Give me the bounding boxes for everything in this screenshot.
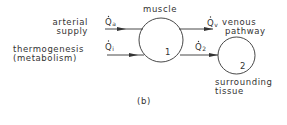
q2-symbol: Q2 [195,43,207,53]
panel-label: (b) [137,97,151,106]
qi-symbol: Qi [105,43,115,53]
arterial-label-line2: supply [30,27,88,36]
qv-symbol: Qv [207,19,218,29]
qv-subscript: v [214,21,218,28]
muscle-node-number: 1 [165,48,171,57]
venous-label: venous pathway [222,18,266,36]
q2-arrow-icon [209,53,218,57]
q2-subscript: 2 [202,45,206,52]
arterial-arrow-icon [117,27,126,31]
tissue-node-circle [218,37,255,74]
qi-subscript: i [112,45,114,52]
metabolism-arrow-icon [129,53,138,57]
muscle-label: muscle [143,5,177,14]
tissue-label-line2: tissue [215,87,273,96]
tissue-node-number: 2 [240,62,246,71]
qa-subscript: a [112,20,116,27]
qa-symbol: Qa [105,18,117,28]
tissue-label: surrounding tissue [215,78,273,96]
metabolism-label-line2: (metabolism) [13,54,84,63]
muscle-node-circle [139,18,183,62]
venous-label-line2: pathway [222,27,266,36]
metabolism-label: thermogenesis (metabolism) [13,45,84,63]
arterial-label: arterial supply [30,18,88,36]
